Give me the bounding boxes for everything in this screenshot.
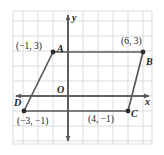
y-axis-label: y xyxy=(71,12,77,23)
vertex-label-a: A xyxy=(56,43,64,54)
x-axis-label: x xyxy=(144,96,150,107)
vertex-point-b xyxy=(141,50,146,55)
origin-label: O xyxy=(57,84,64,95)
coord-label-c: (4, −1) xyxy=(88,114,114,125)
coord-label-b: (6, 3) xyxy=(121,36,142,47)
vertex-point-c xyxy=(126,109,131,114)
graph-canvas: y x O A B C D (−1, 3) (6, 3) (4, −1) (−3… xyxy=(0,0,164,155)
vertex-point-d xyxy=(22,109,27,114)
vertex-point-a xyxy=(51,50,56,55)
coord-label-a: (−1, 3) xyxy=(16,41,42,52)
coordinate-plane-figure: y x O A B C D (−1, 3) (6, 3) (4, −1) (−3… xyxy=(0,0,164,155)
vertex-label-c: C xyxy=(131,108,138,119)
vertex-label-d: D xyxy=(13,97,21,108)
vertex-label-b: B xyxy=(145,56,153,67)
coord-label-d: (−3, −1) xyxy=(17,116,48,127)
